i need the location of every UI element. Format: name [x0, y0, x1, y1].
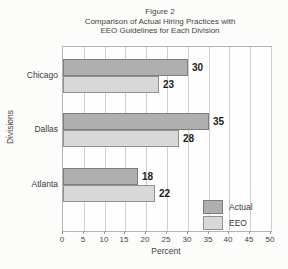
figure-title-line3: EEO Guidelines for Each Division — [32, 26, 288, 36]
figure-title-line2: Comparison of Actual Hiring Practices wi… — [32, 17, 288, 27]
tickmark-25 — [166, 231, 167, 234]
tickmark-50 — [270, 231, 271, 234]
bar-atlanta-actual — [63, 168, 138, 185]
bar-value-dallas-eeo: 28 — [183, 130, 194, 147]
figure-title: Figure 2 Comparison of Actual Hiring Pra… — [32, 7, 288, 36]
legend-swatch-actual — [203, 200, 223, 214]
bar-value-dallas-actual: 35 — [213, 113, 224, 130]
legend-item-actual: Actual — [203, 199, 253, 215]
tickmark-10 — [104, 231, 105, 234]
bar-value-atlanta-eeo: 22 — [159, 185, 170, 202]
tickmark-30 — [187, 231, 188, 234]
tickmark-20 — [145, 231, 146, 234]
legend-label-eeo: EEO — [223, 218, 247, 228]
tick-label-50: 50 — [258, 235, 282, 244]
figure-number: Figure 2 — [32, 7, 288, 17]
bar-value-atlanta-actual: 18 — [142, 168, 153, 185]
tickmark-0 — [62, 231, 63, 234]
bar-dallas-eeo — [63, 130, 179, 147]
bar-value-chicago-eeo: 23 — [163, 76, 174, 93]
bar-atlanta-eeo — [63, 185, 155, 202]
tickmark-5 — [83, 231, 84, 234]
gridline-50 — [271, 47, 272, 231]
plot-area: 302335281822 Actual EEO — [62, 46, 272, 232]
tickmark-45 — [249, 231, 250, 234]
bar-chicago-eeo — [63, 76, 159, 93]
legend-label-actual: Actual — [223, 202, 253, 212]
legend-item-eeo: EEO — [203, 215, 253, 231]
category-label-atlanta: Atlanta — [0, 179, 58, 189]
tickmark-40 — [228, 231, 229, 234]
tickmark-15 — [124, 231, 125, 234]
bar-chicago-actual — [63, 59, 188, 76]
legend-swatch-eeo — [203, 216, 223, 230]
x-axis-label: Percent — [62, 246, 270, 256]
bar-dallas-actual — [63, 113, 209, 130]
category-label-chicago: Chicago — [0, 70, 58, 80]
tickmark-35 — [208, 231, 209, 234]
category-label-dallas: Dallas — [0, 124, 58, 134]
legend: Actual EEO — [203, 199, 253, 231]
bar-value-chicago-actual: 30 — [192, 59, 203, 76]
